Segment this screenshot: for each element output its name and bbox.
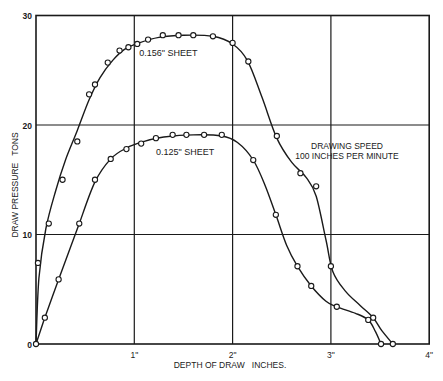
data-point-marker (56, 277, 61, 282)
annotation-speed-value: 100 INCHES PER MINUTE (295, 151, 399, 161)
data-point-marker (77, 221, 82, 226)
data-point-marker (201, 132, 206, 137)
data-point-marker (390, 341, 395, 346)
data-point-marker (176, 33, 181, 38)
data-point-marker (86, 92, 91, 97)
series-label-0156-sheet: 0.156" SHEET (139, 48, 198, 58)
data-point-marker (135, 41, 140, 46)
data-point-marker (314, 184, 319, 189)
data-point-marker (184, 132, 189, 137)
data-point-marker (309, 283, 314, 288)
data-point-marker (273, 212, 278, 217)
y-axis-label: DRAW PRESSURE TONS (10, 132, 20, 237)
series-line (36, 135, 381, 344)
data-point-marker (92, 82, 97, 87)
data-point-marker (219, 132, 224, 137)
series-label-0125-sheet: 0.125" SHEET (156, 147, 215, 157)
x-tick-label: 4" (425, 350, 433, 360)
y-tick-label: 10 (23, 230, 33, 240)
data-point-marker (124, 146, 129, 151)
data-point-marker (328, 264, 333, 269)
data-point-marker (246, 59, 251, 64)
x-tick-label: 3" (327, 350, 335, 360)
draw-pressure-chart: 1"2"3"4"0102030 0.156" SHEET 0.125" SHEE… (0, 0, 443, 381)
data-point-marker (42, 315, 47, 320)
data-point-marker (145, 37, 150, 42)
data-point-marker (230, 40, 235, 45)
tick-labels: 1"2"3"4"0102030 (23, 11, 434, 360)
series-curves (36, 35, 393, 344)
data-point-marker (334, 304, 339, 309)
data-point-marker (92, 177, 97, 182)
y-tick-label: 20 (23, 121, 33, 131)
x-tick-label: 2" (229, 350, 237, 360)
data-point-marker (378, 341, 383, 346)
data-point-marker (366, 317, 371, 322)
data-point-marker (108, 156, 113, 161)
data-point-marker (60, 177, 65, 182)
data-point-marker (139, 141, 144, 146)
data-point-marker (75, 139, 80, 144)
data-point-marker (33, 341, 38, 346)
data-point-marker (298, 171, 303, 176)
data-point-marker (46, 221, 51, 226)
annotation-drawing-speed: DRAWING SPEED (311, 141, 383, 151)
data-point-marker (295, 264, 300, 269)
x-tick-label: 1" (130, 350, 138, 360)
data-point-marker (191, 33, 196, 38)
y-tick-label: 30 (23, 11, 33, 21)
data-point-marker (170, 132, 175, 137)
data-point-marker (160, 33, 165, 38)
y-tick-label: 0 (27, 340, 32, 350)
data-point-marker (126, 45, 131, 50)
data-point-marker (210, 34, 215, 39)
x-axis-label: DEPTH OF DRAW INCHES. (174, 360, 287, 370)
series-line (36, 35, 393, 344)
data-point-marker (105, 60, 110, 65)
data-point-marker (35, 260, 40, 265)
data-point-marker (274, 133, 279, 138)
chart-canvas: 1"2"3"4"0102030 0.156" SHEET 0.125" SHEE… (0, 0, 443, 381)
data-point-marker (117, 48, 122, 53)
data-point-markers (33, 33, 395, 347)
data-point-marker (153, 136, 158, 141)
data-point-marker (251, 157, 256, 162)
